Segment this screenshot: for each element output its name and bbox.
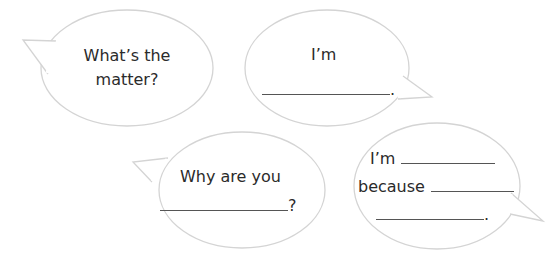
bubble-4-line-1: I’m bbox=[370, 149, 495, 168]
speech-bubble-2-shape bbox=[245, 10, 432, 126]
bubble-1-line-2: matter? bbox=[67, 70, 187, 90]
bubble-3-punctuation: ? bbox=[288, 196, 297, 215]
answer-blank[interactable] bbox=[431, 190, 514, 192]
bubble-2-label: I’m bbox=[311, 45, 336, 65]
answer-blank[interactable] bbox=[376, 218, 484, 220]
bubble-3-label: Why are you bbox=[180, 167, 281, 187]
bubble-2-answer-row: . bbox=[262, 80, 395, 99]
bubble-1-line-1: What’s the bbox=[67, 46, 187, 66]
bubble-4-prefix-because: because bbox=[358, 177, 425, 196]
bubble-4-line-3: . bbox=[376, 205, 489, 224]
bubble-3-answer-row: ? bbox=[160, 196, 297, 215]
bubble-2-punctuation: . bbox=[390, 80, 395, 99]
speech-bubble-3-shape bbox=[133, 132, 325, 248]
answer-blank[interactable] bbox=[262, 93, 390, 95]
bubble-1-text: What’s the matter? bbox=[67, 46, 187, 90]
bubble-4-prefix-im: I’m bbox=[370, 149, 395, 168]
answer-blank[interactable] bbox=[160, 209, 288, 211]
answer-blank[interactable] bbox=[401, 162, 495, 164]
bubble-4-punctuation: . bbox=[484, 205, 489, 224]
bubble-4-line-2: because bbox=[358, 177, 514, 196]
